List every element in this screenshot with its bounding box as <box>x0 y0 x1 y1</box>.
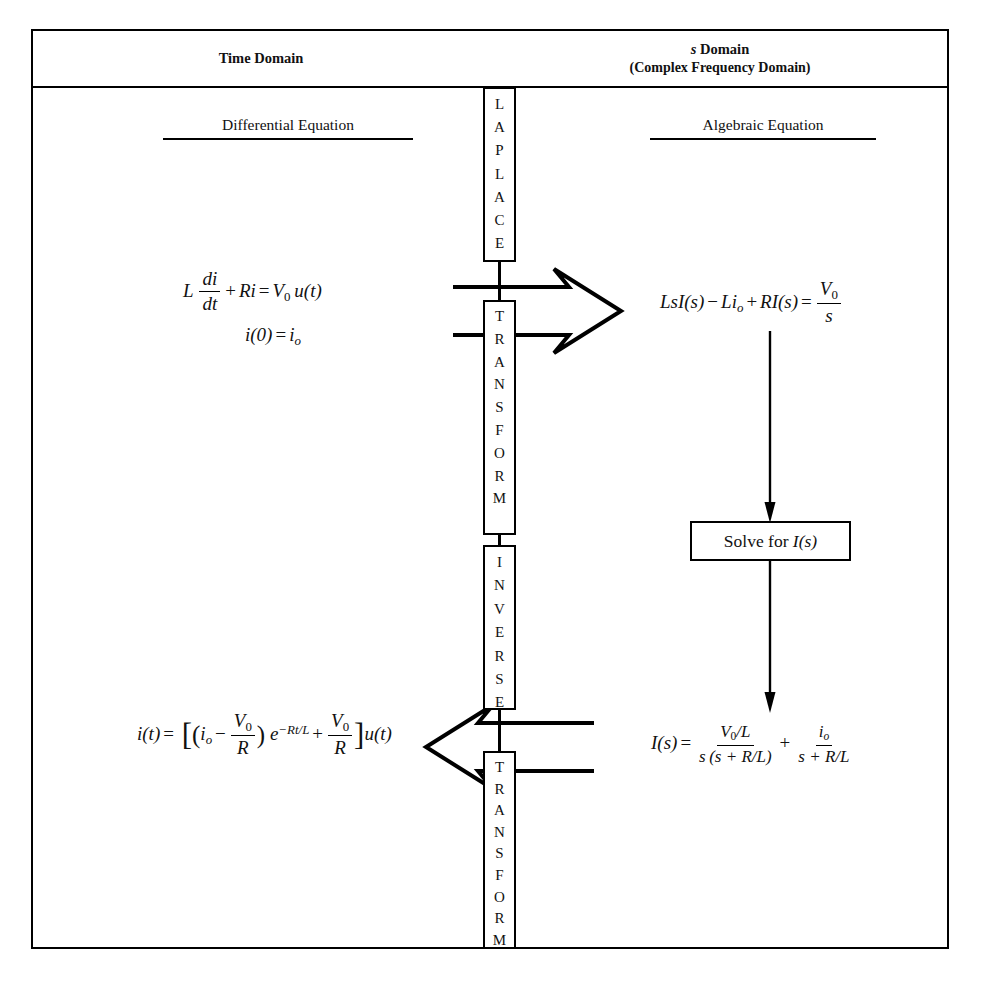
header-s-domain: s Domain (Complex Frequency Domain) <box>489 31 951 86</box>
transform-top-letter-3: N <box>494 377 505 392</box>
fraction-V0L-numerator: V0/L <box>717 722 753 746</box>
sub-o-1: o <box>294 332 300 347</box>
fraction-V0R2-numerator: V0 <box>328 710 352 736</box>
op-equals-2: = <box>272 324 289 345</box>
transform-bottom-letter-0: T <box>495 760 504 775</box>
solve-box-suffix: (s) <box>799 531 817 551</box>
transform-top-letter-6: O <box>494 446 505 461</box>
laplace-letter-6: E <box>495 236 504 251</box>
transform-top-letter-1: R <box>494 332 504 347</box>
transform-bottom-letter-5: F <box>495 868 503 883</box>
op-plus-4: + <box>309 723 326 744</box>
header-time-domain: Time Domain <box>33 31 489 86</box>
fraction-di-dt-numerator: di <box>199 268 220 292</box>
op-plus-3: + <box>777 732 794 753</box>
fraction-V0-s-denominator: s <box>822 304 835 327</box>
op-plus-1: + <box>222 280 239 301</box>
header-s-domain-label: s Domain <box>691 41 749 59</box>
sub-zero-2: 0 <box>831 287 837 302</box>
inverse-letter-6: E <box>495 695 504 710</box>
transform-bottom-letter-3: N <box>494 825 505 840</box>
fraction-V0L-denominator: s (s + R/L) <box>696 746 775 767</box>
solve-box-text: Solve for I(s) <box>724 531 817 552</box>
inverse-letter-1: N <box>494 578 505 593</box>
connector-inverse-to-transform <box>498 706 501 754</box>
term-ut: u(t) <box>364 723 391 744</box>
equation-differential-line1: L didt+Ri=V0 u(t) <box>183 269 322 316</box>
op-plus-2: + <box>743 291 760 312</box>
transform-top-letter-4: S <box>495 400 503 415</box>
transform-top-letter-7: R <box>494 469 504 484</box>
vertical-label-transform-top: T R A N S F O R M <box>483 300 516 535</box>
fraction-di-dt: didt <box>199 268 220 315</box>
term-Is: I(s) <box>651 732 677 753</box>
inverse-letter-5: S <box>495 672 503 687</box>
laplace-letter-1: A <box>494 120 505 135</box>
fraction-io-denominator: s + R/L <box>795 746 852 767</box>
op-equals-1: = <box>256 280 273 301</box>
header-s-domain-sublabel: (Complex Frequency Domain) <box>630 59 811 76</box>
bracket-close: ] <box>354 717 364 753</box>
solve-for-is-box: Solve for I(s) <box>690 521 851 561</box>
arrow-down-to-solution <box>760 561 780 713</box>
vertical-label-transform-bottom: T R A N S F O R M <box>483 751 516 949</box>
fraction-V0-s-numerator: V0 <box>817 278 841 304</box>
sub-zero-5: 0 <box>343 719 349 734</box>
laplace-letter-2: P <box>495 143 503 158</box>
transform-top-letter-5: F <box>495 423 503 438</box>
fraction-di-dt-denominator: dt <box>199 292 220 315</box>
term-Lio: Lio <box>721 291 743 312</box>
equation-differential-line2: i(0)=io <box>245 324 322 349</box>
transform-bottom-letter-1: R <box>494 782 504 797</box>
laplace-letter-0: L <box>495 97 504 112</box>
laplace-letter-4: A <box>494 190 505 205</box>
fraction-io-numerator: io <box>816 722 833 746</box>
bracket-open: [ <box>182 717 192 753</box>
subheading-algebraic-equation: Algebraic Equation <box>650 116 876 140</box>
inverse-letter-3: E <box>495 625 504 640</box>
header-time-domain-label: Time Domain <box>219 50 304 68</box>
fraction-V0R1-numerator: V0 <box>231 710 255 736</box>
vertical-label-laplace: L A P L A C E <box>483 87 516 262</box>
header-band: Time Domain s Domain (Complex Frequency … <box>33 31 947 88</box>
transform-top-letter-8: M <box>493 491 506 506</box>
sym-L: L <box>183 280 194 301</box>
fraction-V0R1-denominator: R <box>234 736 252 759</box>
inverse-letter-0: I <box>497 555 502 570</box>
laplace-letter-5: C <box>494 213 504 228</box>
transform-top-letter-0: T <box>495 309 504 324</box>
paren-open: ( <box>192 721 200 749</box>
transform-bottom-letter-8: M <box>493 933 506 948</box>
equation-algebraic: LsI(s)−Lio+RI(s)=V0s <box>660 279 843 328</box>
fraction-V0-over-s: V0s <box>817 278 841 327</box>
term-io: io <box>289 324 301 345</box>
term-RIs: RI(s) <box>760 291 798 312</box>
term-Ri: Ri <box>239 280 256 301</box>
subheading-differential-equation: Differential Equation <box>163 116 413 140</box>
solve-box-prefix: Solve for <box>724 531 793 551</box>
transform-bottom-letter-6: O <box>494 890 505 905</box>
fraction-V0-over-R-1: V0R <box>231 710 255 759</box>
inverse-letter-2: V <box>494 602 505 617</box>
transform-bottom-letter-7: R <box>494 911 504 926</box>
term-it: i(t) <box>137 723 160 744</box>
op-minus-1: − <box>704 291 721 312</box>
arrow-down-to-solve-box <box>760 331 780 523</box>
header-s-rest: Domain <box>696 41 749 57</box>
laplace-letter-3: L <box>495 167 504 182</box>
connector-laplace-to-transform <box>498 260 501 304</box>
paren-close: ) <box>257 721 265 749</box>
term-i0: i(0) <box>245 324 272 345</box>
op-equals-4: = <box>677 732 694 753</box>
sub-zero-1: 0 <box>284 288 290 303</box>
sub-o-3: o <box>823 730 829 743</box>
fraction-V0R2-denominator: R <box>331 736 349 759</box>
term-exponential: e−Rt/L <box>270 723 309 744</box>
transform-bottom-letter-2: A <box>494 803 505 818</box>
exponent-minus-Rt-over-L: −Rt/L <box>278 722 309 737</box>
inverse-letter-4: R <box>494 649 504 664</box>
transform-top-letter-2: A <box>494 355 505 370</box>
term-io-2: io <box>200 723 212 744</box>
term-LsIs: LsI(s) <box>660 291 704 312</box>
fraction-io-over-sRL: ios + R/L <box>795 722 852 766</box>
